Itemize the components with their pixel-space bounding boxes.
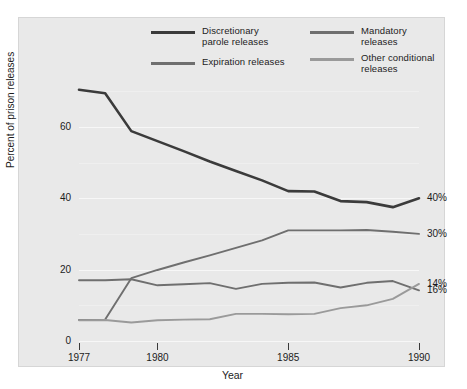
x-tick-mark <box>419 343 420 350</box>
y-tick-label: 0 <box>45 335 71 346</box>
y-axis-title: Percent of prison releases <box>5 52 16 168</box>
legend-item-expiration-releases[interactable]: Expiration releases <box>151 56 285 67</box>
legend-swatch-mandatory-releases <box>310 31 354 34</box>
legend-swatch-other-conditional-releases <box>310 58 354 61</box>
legend-swatch-expiration-releases <box>151 62 195 65</box>
x-tick-label: 1977 <box>59 352 99 363</box>
legend-label-discretionary-parole-releases: Discretionary parole releases <box>202 25 268 47</box>
x-axis-title: Year <box>19 369 446 381</box>
legend-item-other-conditional-releases[interactable]: Other conditional releases <box>310 52 435 74</box>
y-tick-label: 20 <box>45 264 71 275</box>
legend-item-mandatory-releases[interactable]: Mandatory releases <box>310 25 441 47</box>
series-line <box>79 90 419 207</box>
legend-label-other-conditional-releases: Other conditional releases <box>361 52 435 74</box>
chart-figure: Discretionary parole releases Mandatory … <box>18 17 445 367</box>
plot-area <box>79 84 419 341</box>
legend-label-mandatory-releases: Mandatory releases <box>361 25 441 47</box>
chart-legend: Discretionary parole releases Mandatory … <box>151 22 441 84</box>
x-tick-mark <box>79 343 80 350</box>
y-tick-label: 60 <box>45 121 71 132</box>
x-tick-label: 1990 <box>399 352 439 363</box>
legend-item-discretionary-parole-releases[interactable]: Discretionary parole releases <box>151 25 268 47</box>
x-tick-label: 1980 <box>137 352 177 363</box>
legend-swatch-discretionary-parole-releases <box>151 31 195 34</box>
x-tick-label: 1985 <box>268 352 308 363</box>
series-end-label: 30% <box>427 228 447 239</box>
gridline <box>79 341 419 342</box>
x-tick-mark <box>157 343 158 350</box>
series-line <box>79 284 419 323</box>
series-end-label: 14% <box>427 278 447 289</box>
series-line <box>79 230 419 320</box>
legend-label-expiration-releases: Expiration releases <box>202 56 285 67</box>
series-lines <box>79 84 419 341</box>
x-tick-mark <box>288 343 289 350</box>
y-tick-label: 40 <box>45 192 71 203</box>
series-end-label: 40% <box>427 192 447 203</box>
